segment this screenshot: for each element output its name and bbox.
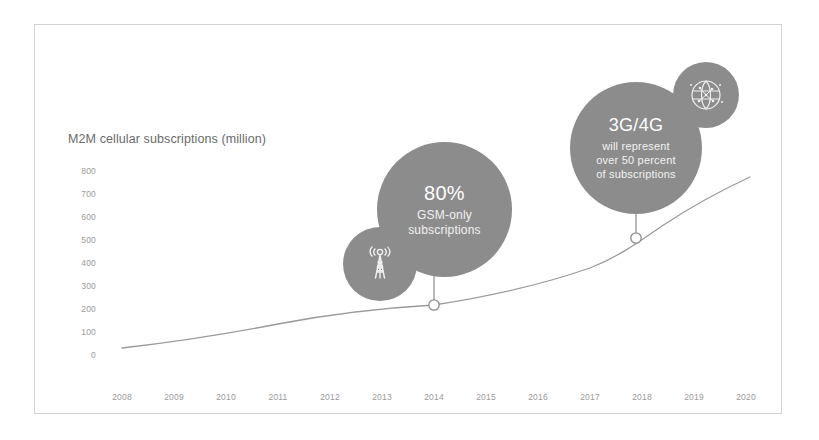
annotation-one-line1: GSM-only bbox=[408, 208, 481, 223]
annotation-one-line2: subscriptions bbox=[408, 223, 481, 238]
annotation-two-bubble: 3G/4G will represent over 50 percent of … bbox=[570, 82, 702, 214]
annotation-two-headline: 3G/4G bbox=[596, 114, 676, 137]
annotation-two-text: 3G/4G will represent over 50 percent of … bbox=[596, 114, 676, 181]
annotation-one-text: 80% GSM-only subscriptions bbox=[408, 181, 481, 238]
data-marker-2014 bbox=[429, 300, 439, 310]
annotation-one-bubble: 80% GSM-only subscriptions bbox=[377, 142, 512, 277]
annotation-one-headline: 80% bbox=[408, 181, 481, 206]
chart-screenshot: M2M cellular subscriptions (million) 800… bbox=[0, 0, 819, 440]
annotation-two-line3: of subscriptions bbox=[596, 167, 676, 181]
annotation-two-line2: over 50 percent bbox=[596, 153, 676, 167]
data-marker-2018 bbox=[631, 233, 641, 243]
annotation-two-line1: will represent bbox=[596, 139, 676, 153]
